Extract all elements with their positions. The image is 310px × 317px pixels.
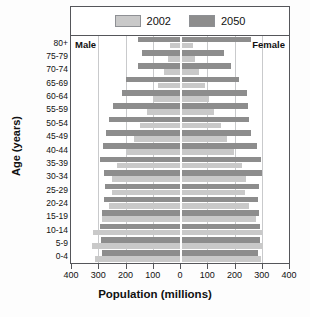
bar-2002-female-50-54 xyxy=(180,123,221,129)
y-tick-20-24: 20-24 xyxy=(22,199,68,207)
bar-2002-male-60-64 xyxy=(153,96,180,102)
bar-2050-female-45-49 xyxy=(180,130,251,136)
bar-2050-female-20-24 xyxy=(180,197,258,203)
bar-2050-female-15-19 xyxy=(180,210,259,216)
bar-2050-female-50-54 xyxy=(180,117,249,123)
bar-2002-male-70-74 xyxy=(164,69,180,75)
bar-2002-female-25-29 xyxy=(180,190,245,196)
bar-2002-male-50-54 xyxy=(140,123,180,129)
bar-2050-female-40-44 xyxy=(180,143,257,149)
bar-2002-female-55-59 xyxy=(180,109,214,115)
bar-2002-female-0-4 xyxy=(180,256,261,262)
bar-2050-male-55-59 xyxy=(113,103,180,109)
x-tick-mark xyxy=(180,264,181,269)
bar-2002-male-75-79 xyxy=(168,56,180,62)
bar-2050-male-60-64 xyxy=(122,90,180,96)
bar-2002-female-40-44 xyxy=(180,149,234,155)
bar-2002-male-25-29 xyxy=(112,190,180,196)
x-tick-mark xyxy=(207,264,208,269)
bar-2050-male-0-4 xyxy=(102,250,180,256)
bar-2002-male-15-19 xyxy=(102,216,180,222)
bar-2050-female-60-64 xyxy=(180,90,247,96)
legend-label-2002: 2002 xyxy=(147,15,171,27)
bar-2002-male-35-39 xyxy=(117,163,180,169)
x-tick-mark xyxy=(126,264,127,269)
bar-2002-female-60-64 xyxy=(180,96,209,102)
bar-2002-male-45-49 xyxy=(134,136,180,142)
bar-2002-female-20-24 xyxy=(180,203,249,209)
bar-2002-female-30-34 xyxy=(180,176,246,182)
population-pyramid-figure: Age (years) 80+75-7970-7465-6960-6455-59… xyxy=(0,0,310,317)
bar-2050-female-10-14 xyxy=(180,224,260,230)
bar-2050-male-25-29 xyxy=(105,184,180,190)
y-tick-60-64: 60-64 xyxy=(22,92,68,100)
bar-2002-male-55-59 xyxy=(147,109,180,115)
bar-2002-male-20-24 xyxy=(109,203,180,209)
bar-2002-female-10-14 xyxy=(180,230,262,236)
legend-label-2050: 2050 xyxy=(221,15,245,27)
y-tick-10-14: 10-14 xyxy=(22,226,68,234)
x-tick-mark xyxy=(71,264,72,269)
bar-2002-male-65-69 xyxy=(158,83,180,89)
y-axis-title: Age (years) xyxy=(10,86,22,206)
legend-item-2050: 2050 xyxy=(189,15,245,27)
bar-2050-female-25-29 xyxy=(180,184,259,190)
plot-frame: 2002 2050 MaleFemale xyxy=(70,6,290,264)
male-side-label: Male xyxy=(75,39,96,50)
bar-2050-female-55-59 xyxy=(180,103,248,109)
bar-2050-female-35-39 xyxy=(180,157,261,163)
bar-2002-male-30-34 xyxy=(112,176,180,182)
bar-2002-female-45-49 xyxy=(180,136,227,142)
bar-2002-male-5-9 xyxy=(92,243,180,249)
bar-2002-male-0-4 xyxy=(95,256,180,262)
bar-2050-male-45-49 xyxy=(106,130,180,136)
bar-2050-female-65-69 xyxy=(180,77,239,83)
bar-2002-female-15-19 xyxy=(180,216,256,222)
bar-2050-male-5-9 xyxy=(101,237,180,243)
bar-2050-male-75-79 xyxy=(142,50,180,56)
bar-2002-female-35-39 xyxy=(180,163,242,169)
y-tick-5-9: 5-9 xyxy=(22,239,68,247)
female-side-label: Female xyxy=(252,39,285,50)
bar-2002-male-40-44 xyxy=(127,149,180,155)
y-tick-70-74: 70-74 xyxy=(22,65,68,73)
legend-swatch-2002 xyxy=(115,15,141,27)
bar-2050-male-15-19 xyxy=(102,210,180,216)
bar-2050-male-70-74 xyxy=(138,63,180,69)
bar-2050-male-40-44 xyxy=(103,143,180,149)
bar-2002-female-65-69 xyxy=(180,83,205,89)
x-axis-tick-labels: 4003002001000100200300400 xyxy=(40,270,310,284)
y-tick-80+: 80+ xyxy=(22,39,68,47)
legend-swatch-2050 xyxy=(189,15,215,27)
y-tick-65-69: 65-69 xyxy=(22,79,68,87)
bar-2050-male-20-24 xyxy=(104,197,180,203)
bar-2002-male-80+ xyxy=(170,43,180,49)
x-tick-mark xyxy=(289,264,290,269)
chart-legend: 2002 2050 xyxy=(71,7,289,36)
y-tick-75-79: 75-79 xyxy=(22,52,68,60)
bar-2050-male-35-39 xyxy=(100,157,180,163)
bar-2050-female-70-74 xyxy=(180,63,231,69)
y-axis-tick-labels: 80+75-7970-7465-6960-6455-5950-5445-4940… xyxy=(22,36,68,264)
y-tick-25-29: 25-29 xyxy=(22,186,68,194)
bar-2050-female-30-34 xyxy=(180,170,262,176)
bar-2002-female-75-79 xyxy=(180,56,195,62)
bar-2050-male-30-34 xyxy=(104,170,180,176)
x-tick-mark xyxy=(235,264,236,269)
x-tick-mark xyxy=(98,264,99,269)
bar-2050-male-50-54 xyxy=(109,117,180,123)
y-tick-55-59: 55-59 xyxy=(22,105,68,113)
y-tick-0-4: 0-4 xyxy=(22,252,68,260)
bar-2050-female-75-79 xyxy=(180,50,224,56)
x-tick-mark xyxy=(262,264,263,269)
gridline-center xyxy=(180,36,182,263)
bar-2050-female-80+ xyxy=(180,37,251,43)
x-tick-label-8: 400 xyxy=(272,270,306,280)
y-tick-30-34: 30-34 xyxy=(22,172,68,180)
bar-2002-female-70-74 xyxy=(180,69,199,75)
bar-2050-female-5-9 xyxy=(180,237,260,243)
bar-2002-female-5-9 xyxy=(180,243,263,249)
bar-2050-male-80+ xyxy=(138,37,180,43)
x-axis-title: Population (millions) xyxy=(0,288,310,300)
bar-2050-female-0-4 xyxy=(180,250,258,256)
